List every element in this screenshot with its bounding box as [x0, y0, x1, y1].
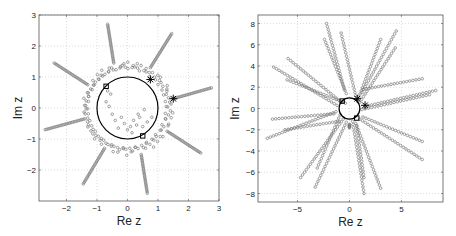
star-marker — [361, 101, 369, 109]
y-tick-label: 8 — [251, 20, 256, 29]
y-axis-label: Im z — [228, 97, 242, 120]
x-axis-label: Re z — [338, 215, 363, 229]
y-tick-label: 6 — [251, 41, 256, 50]
star-marker — [353, 95, 361, 103]
y-tick-label: −2 — [27, 166, 37, 175]
x-axis-label: Re z — [117, 214, 142, 228]
y-tick-label: 0 — [251, 105, 256, 114]
y-tick-label: −8 — [246, 190, 256, 199]
x-tick-label: 0 — [125, 204, 130, 213]
figure: −2−10123−2−10123Re zIm z −505−8−6−4−2024… — [0, 0, 456, 236]
x-tick-label: 0 — [347, 205, 352, 214]
grid — [39, 15, 219, 201]
right-plot: −505−8−6−4−202468Re zIm z — [228, 15, 443, 229]
y-tick-label: 0 — [32, 104, 37, 113]
x-tick-label: −2 — [62, 204, 72, 213]
y-tick-label: 2 — [251, 83, 256, 92]
y-axis-label: Im z — [11, 97, 25, 120]
grid — [258, 15, 443, 202]
star-marker — [146, 75, 154, 83]
x-tick-label: −1 — [92, 204, 102, 213]
data-series — [44, 23, 213, 195]
left-plot: −2−10123−2−10123Re zIm z — [11, 11, 222, 228]
x-tick-label: 3 — [217, 204, 222, 213]
x-tick-label: 2 — [186, 204, 191, 213]
star-marker — [169, 95, 177, 103]
y-tick-label: −1 — [27, 135, 37, 144]
y-tick-label: 4 — [251, 62, 256, 71]
y-tick-label: −6 — [246, 168, 256, 177]
x-tick-label: 5 — [399, 205, 404, 214]
y-tick-label: 3 — [32, 11, 37, 20]
x-tick-label: 1 — [156, 204, 161, 213]
x-tick-label: −5 — [293, 205, 303, 214]
y-tick-label: 2 — [32, 42, 37, 51]
y-tick-label: −2 — [246, 126, 256, 135]
y-tick-label: −4 — [246, 147, 256, 156]
y-tick-label: 1 — [32, 73, 37, 82]
